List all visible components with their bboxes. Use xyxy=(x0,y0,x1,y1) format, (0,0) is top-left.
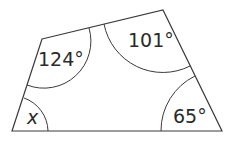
angle-label-bottom-right: 65° xyxy=(173,107,207,126)
angle-label-bottom-left: x xyxy=(27,108,38,127)
angle-label-top-left: 124° xyxy=(38,50,84,69)
angle-label-top-right: 101° xyxy=(128,31,174,50)
